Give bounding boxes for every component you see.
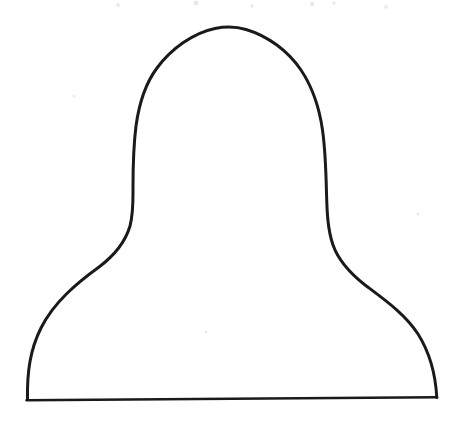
paper-speck <box>417 213 420 216</box>
paper-speck <box>332 1 335 4</box>
paper-speck <box>384 5 388 9</box>
line-drawing: Hand-drawn bell / mushroom outline <box>0 0 463 427</box>
paper-speck <box>194 1 199 6</box>
bell-outline-path <box>27 27 436 399</box>
paper-speck <box>310 2 314 6</box>
paper-speck <box>116 3 120 7</box>
paper-specks <box>73 1 420 334</box>
paper-speck <box>205 331 208 334</box>
paper-speck <box>250 4 254 8</box>
baseline-path <box>27 397 438 400</box>
paper-speck <box>73 95 76 98</box>
drawing-canvas: Hand-drawn bell / mushroom outline <box>0 0 463 427</box>
